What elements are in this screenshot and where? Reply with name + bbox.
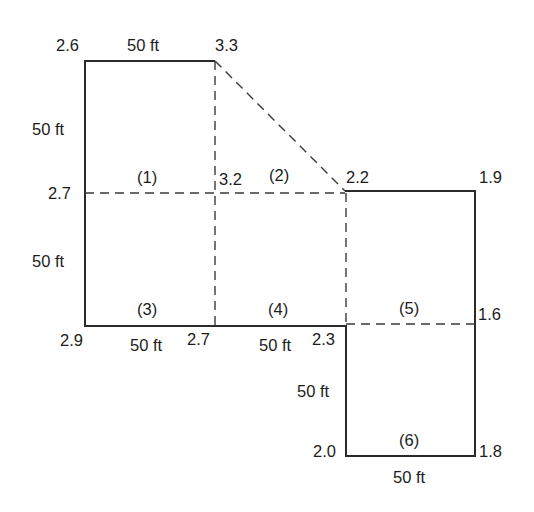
elev-mid-right-notch: 2.2 bbox=[346, 168, 369, 186]
grid-diagram: 2.6 3.3 2.7 3.2 2.2 1.9 2.9 2.7 2.3 1.6 … bbox=[0, 0, 534, 512]
dim-lower-width: 50 ft bbox=[393, 468, 426, 486]
dim-left-upper-height: 50 ft bbox=[32, 120, 65, 138]
cell-label-3: (3) bbox=[137, 300, 157, 318]
elev-bottom-left: 2.9 bbox=[60, 331, 83, 349]
elev-mid-center: 3.2 bbox=[219, 170, 242, 188]
dim-bottom-width-2: 50 ft bbox=[259, 336, 292, 354]
elev-top-diag-start: 3.3 bbox=[215, 36, 238, 54]
elev-top-left: 2.6 bbox=[56, 36, 79, 54]
dim-lower-height: 50 ft bbox=[297, 382, 330, 400]
cell-label-2: (2) bbox=[269, 166, 289, 184]
elev-bottom-notch: 2.3 bbox=[312, 330, 335, 348]
cell-label-4: (4) bbox=[268, 300, 288, 318]
elev-mid-left: 2.7 bbox=[48, 184, 71, 202]
cell-label-6: (6) bbox=[399, 431, 419, 449]
dim-left-lower-height: 50 ft bbox=[32, 252, 65, 270]
elev-right-mid: 1.6 bbox=[478, 305, 501, 323]
outline-top-left bbox=[85, 61, 475, 456]
elev-mid-far-right: 1.9 bbox=[479, 168, 502, 186]
elev-bottom-center: 2.7 bbox=[187, 330, 210, 348]
cell-label-1: (1) bbox=[137, 168, 157, 186]
elev-lower-right: 1.8 bbox=[479, 442, 502, 460]
dim-top-width: 50 ft bbox=[127, 36, 160, 54]
dim-bottom-width-1: 50 ft bbox=[130, 336, 163, 354]
cell-label-5: (5) bbox=[399, 299, 419, 317]
elev-lower-left: 2.0 bbox=[313, 442, 336, 460]
